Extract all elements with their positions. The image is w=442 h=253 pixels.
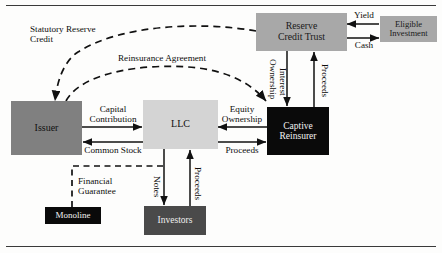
label-cash: Cash <box>348 40 380 50</box>
label-capital-contribution-line1: Capital <box>100 104 127 114</box>
label-common-stock-text: Common Stock <box>84 145 141 155</box>
label-ownership-interest: Ownership <box>268 54 278 104</box>
node-monoline[interactable]: Monoline <box>45 207 101 224</box>
label-proceeds-investors: Proceeds <box>193 162 203 206</box>
node-reserve-credit-trust-label-line1: Reserve <box>286 20 318 31</box>
edge-reinsurance-agreement <box>66 66 266 101</box>
label-proceeds-investors-text: Proceeds <box>193 167 203 200</box>
node-monoline-label: Monoline <box>45 211 101 221</box>
label-capital-contribution: Capital Contribution <box>84 104 142 125</box>
label-reinsurance-agreement-text: Reinsurance Agreement <box>118 53 206 63</box>
label-statutory-reserve-credit-line1: Statutory Reserve <box>30 24 96 34</box>
label-yield-text: Yield <box>354 10 374 20</box>
label-financial-guarantee-line1: Financial <box>78 176 112 186</box>
node-investors[interactable]: Investors <box>144 206 206 235</box>
label-statutory-reserve-credit-line2: Credit <box>30 34 53 44</box>
node-captive-reinsurer[interactable]: Captive Reinsurer <box>267 107 329 155</box>
diagram-canvas: Issuer LLC Captive Reinsurer Reserve Cre… <box>0 0 442 253</box>
label-proceeds-llc-captive-text: Proceeds <box>225 145 258 155</box>
label-ownership-interest-line2: Interest <box>278 68 288 96</box>
label-financial-guarantee-line2: Guarantee <box>78 186 116 196</box>
node-investors-label: Investors <box>144 215 206 225</box>
node-llc[interactable]: LLC <box>143 100 218 149</box>
label-common-stock: Common Stock <box>84 145 142 155</box>
node-captive-reinsurer-label-line2: Reinsurer <box>280 131 317 141</box>
label-equity-ownership: Equity Ownership <box>215 104 269 125</box>
label-financial-guarantee: Financial Guarantee <box>78 176 148 197</box>
node-issuer-label: Issuer <box>11 123 82 134</box>
node-captive-reinsurer-label-line1: Captive <box>283 121 313 131</box>
label-proceeds-llc-captive: Proceeds <box>216 145 268 155</box>
label-notes-text: Notes <box>152 176 162 197</box>
node-issuer[interactable]: Issuer <box>11 101 82 155</box>
node-eligible-investment-label-line2: Investment <box>389 28 427 38</box>
label-proceeds-captive-trust: Proceeds <box>320 58 330 104</box>
label-cash-text: Cash <box>355 40 373 50</box>
node-reserve-credit-trust[interactable]: Reserve Credit Trust <box>256 13 347 51</box>
label-capital-contribution-line2: Contribution <box>90 114 137 124</box>
label-proceeds-captive-trust-text: Proceeds <box>320 64 330 97</box>
label-equity-ownership-line2: Ownership <box>222 114 262 124</box>
label-ownership-interest-2: Interest <box>278 60 288 104</box>
node-eligible-investment[interactable]: Eligible Investment <box>380 16 437 42</box>
label-equity-ownership-line1: Equity <box>230 104 255 114</box>
label-reinsurance-agreement: Reinsurance Agreement <box>98 53 226 63</box>
label-statutory-reserve-credit: Statutory Reserve Credit <box>30 24 140 45</box>
node-llc-label: LLC <box>143 119 218 130</box>
label-yield: Yield <box>348 10 380 20</box>
node-reserve-credit-trust-label-line2: Credit Trust <box>278 31 325 42</box>
label-notes: Notes <box>152 170 162 204</box>
label-ownership-interest-line1: Ownership <box>268 59 278 99</box>
